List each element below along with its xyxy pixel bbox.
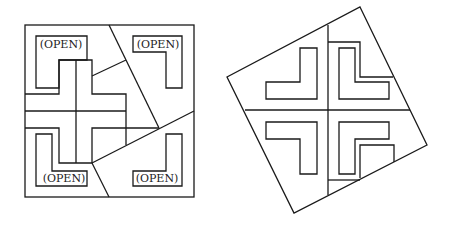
left-square-figure: (OPEN) (OPEN) (OPEN) (OPEN) xyxy=(25,25,194,197)
right-rotated-figure xyxy=(227,7,427,213)
dissection-diagram: (OPEN) (OPEN) (OPEN) (OPEN) xyxy=(0,0,449,229)
open-label-bottom-right: (OPEN) xyxy=(136,172,179,185)
cross-outline-lower xyxy=(25,128,159,163)
cut-line-diagonal-lower xyxy=(92,111,194,163)
piece-edge-top-right xyxy=(328,42,393,77)
hole-top-left xyxy=(266,48,317,99)
hole-top-right xyxy=(339,48,389,99)
piece-edge-bottom-right xyxy=(360,145,394,178)
open-label-bottom-left: (OPEN) xyxy=(43,172,86,185)
hole-bottom-right xyxy=(339,122,389,174)
cut-line-bottom xyxy=(92,163,109,197)
cut-line-upper-short xyxy=(92,60,126,76)
open-label-top-right: (OPEN) xyxy=(137,38,180,51)
open-label-top-left: (OPEN) xyxy=(40,38,83,51)
hole-bottom-left xyxy=(266,122,317,174)
